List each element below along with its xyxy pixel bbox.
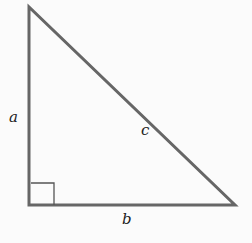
right-triangle-diagram: a c b [0,0,252,243]
triangle [29,7,235,205]
label-c: c [141,121,150,139]
right-angle-marker [31,183,54,205]
label-b: b [122,210,132,228]
label-a: a [9,108,18,126]
